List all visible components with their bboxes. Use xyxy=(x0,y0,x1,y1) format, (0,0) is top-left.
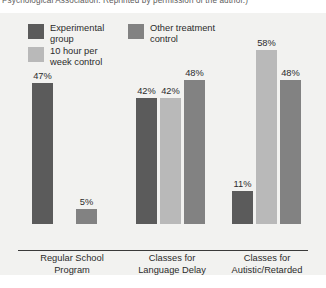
bar: 48% xyxy=(184,80,205,224)
bar-value-label: 58% xyxy=(257,38,276,48)
figure-caption-strip: Psychological Association. Reprinted by … xyxy=(0,0,326,7)
bar-value-label: 42% xyxy=(161,86,180,96)
bar-value-label: 42% xyxy=(137,86,156,96)
legend-swatch-experimental-group xyxy=(28,24,44,39)
x-axis-group-label: Classes for Autistic/Retarded xyxy=(212,253,322,276)
legend-label-10-hour-per-week-control: 10 hour per week control xyxy=(50,46,102,67)
bar-value-label: 48% xyxy=(281,68,300,78)
legend-swatch-10-hour-per-week-control xyxy=(28,47,44,62)
bar: 11% xyxy=(232,191,253,224)
figure-caption-text: Psychological Association. Reprinted by … xyxy=(0,0,326,6)
x-axis-group-label: Regular School Program xyxy=(18,253,126,276)
bar: 42% xyxy=(136,98,157,224)
bar-value-label: 48% xyxy=(185,68,204,78)
legend-label-experimental-group: Experimental group xyxy=(50,23,104,44)
bar: 42% xyxy=(160,98,181,224)
bar-value-label: 47% xyxy=(33,71,52,81)
x-axis-group-label: Classes for Language Delay xyxy=(120,253,224,276)
bar-value-label: 5% xyxy=(80,197,93,207)
legend-item-other-treatment-control: Other treatment control xyxy=(128,23,215,44)
legend-item-experimental-group: Experimental group xyxy=(28,23,104,44)
figure-bottom-margin xyxy=(0,275,326,288)
bar-chart-figure: Psychological Association. Reprinted by … xyxy=(0,0,326,288)
x-axis-line xyxy=(18,250,308,251)
plot-area: Experimental group Other treatment contr… xyxy=(0,13,326,275)
bar: 47% xyxy=(32,83,53,224)
legend-label-other-treatment-control: Other treatment control xyxy=(150,23,215,44)
bar: 48% xyxy=(280,80,301,224)
legend-item-10-hour-per-week-control: 10 hour per week control xyxy=(28,46,102,67)
bar: 58% xyxy=(256,50,277,224)
legend-swatch-other-treatment-control xyxy=(128,24,144,39)
bar: 5% xyxy=(76,209,97,224)
chart-legend: Experimental group Other treatment contr… xyxy=(28,23,288,71)
bar-value-label: 11% xyxy=(234,179,252,189)
